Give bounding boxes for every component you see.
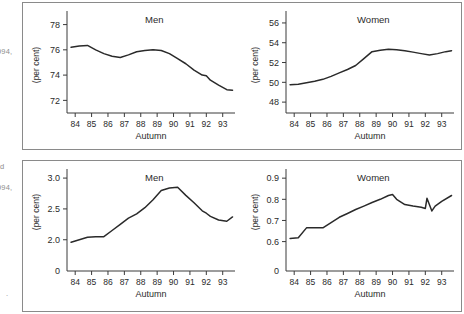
svg-text:86: 86 [322,119,332,129]
svg-text:90: 90 [169,119,179,129]
svg-text:85: 85 [306,277,316,287]
svg-text:0: 0 [55,266,60,276]
svg-text:(per cent): (per cent) [31,47,41,84]
svg-text:87: 87 [120,119,130,129]
svg-text:Men: Men [145,14,163,25]
svg-text:89: 89 [371,277,381,287]
svg-text:(per cent): (per cent) [31,194,41,231]
svg-text:84: 84 [70,277,80,287]
margin-note-mid: 994, [0,183,12,192]
svg-text:84: 84 [289,277,299,287]
svg-text:50: 50 [269,78,279,88]
svg-text:72: 72 [50,96,60,106]
svg-text:86: 86 [103,277,113,287]
svg-text:93: 93 [437,277,447,287]
svg-text:76: 76 [50,45,60,55]
svg-text:87: 87 [339,119,349,129]
chart-panel-top: 7876747284858687888990919293Autumn(per c… [22,2,462,150]
svg-text:89: 89 [152,277,162,287]
margin-note-bottom: . [6,289,8,298]
svg-text:91: 91 [404,277,414,287]
svg-text:2.5: 2.5 [47,204,60,214]
svg-text:56: 56 [269,18,279,28]
svg-text:74: 74 [50,70,60,80]
svg-text:93: 93 [437,119,447,129]
svg-text:91: 91 [185,119,195,129]
chart-top-men: 7876747284858687888990919293Autumn(per c… [23,3,242,149]
svg-text:Women: Women [357,172,390,183]
chart-bottom-men: 3.02.52.0084858687888990919293Autumn(per… [23,161,242,311]
svg-text:86: 86 [103,119,113,129]
svg-text:88: 88 [355,119,365,129]
svg-text:Men: Men [145,172,163,183]
svg-text:52: 52 [269,58,279,68]
svg-text:(per cent): (per cent) [250,194,260,231]
svg-text:0.6: 0.6 [266,237,279,247]
svg-text:90: 90 [388,277,398,287]
svg-text:84: 84 [289,119,299,129]
margin-note-letter: d [0,162,4,171]
svg-text:0: 0 [274,266,279,276]
svg-text:54: 54 [269,38,279,48]
svg-text:Autumn: Autumn [135,289,166,299]
svg-text:84: 84 [70,119,80,129]
svg-text:89: 89 [371,119,381,129]
svg-text:0.8: 0.8 [266,195,279,205]
svg-text:90: 90 [388,119,398,129]
svg-text:93: 93 [218,277,228,287]
svg-text:0.7: 0.7 [266,216,279,226]
svg-text:91: 91 [185,277,195,287]
svg-text:Autumn: Autumn [354,289,385,299]
svg-text:92: 92 [421,119,431,129]
svg-text:92: 92 [202,119,212,129]
svg-text:92: 92 [421,277,431,287]
svg-text:86: 86 [322,277,332,287]
svg-text:Autumn: Autumn [354,131,385,141]
svg-text:91: 91 [404,119,414,129]
svg-text:Women: Women [357,14,390,25]
scanned-page: 994, d 994, . 78767472848586878889909192… [0,0,464,314]
svg-text:93: 93 [218,119,228,129]
svg-text:85: 85 [87,119,97,129]
svg-text:85: 85 [306,119,316,129]
svg-text:92: 92 [202,277,212,287]
svg-text:85: 85 [87,277,97,287]
svg-text:78: 78 [50,20,60,30]
chart-top-women: 565452504884858687888990919293Autumn(per… [242,3,461,149]
svg-text:2.0: 2.0 [47,235,60,245]
svg-text:88: 88 [355,277,365,287]
chart-bottom-women: 0.90.80.70.6084858687888990919293Autumn(… [242,161,461,311]
svg-text:3.0: 3.0 [47,173,60,183]
margin-note-top: 994, [0,47,12,56]
svg-text:87: 87 [339,277,349,287]
svg-text:88: 88 [136,277,146,287]
svg-text:48: 48 [269,97,279,107]
chart-panel-bottom: 3.02.52.0084858687888990919293Autumn(per… [22,160,462,312]
svg-text:Autumn: Autumn [135,131,166,141]
svg-text:89: 89 [152,119,162,129]
svg-text:90: 90 [169,277,179,287]
svg-text:(per cent): (per cent) [250,47,260,84]
svg-text:88: 88 [136,119,146,129]
svg-text:87: 87 [120,277,130,287]
svg-text:0.9: 0.9 [266,173,279,183]
